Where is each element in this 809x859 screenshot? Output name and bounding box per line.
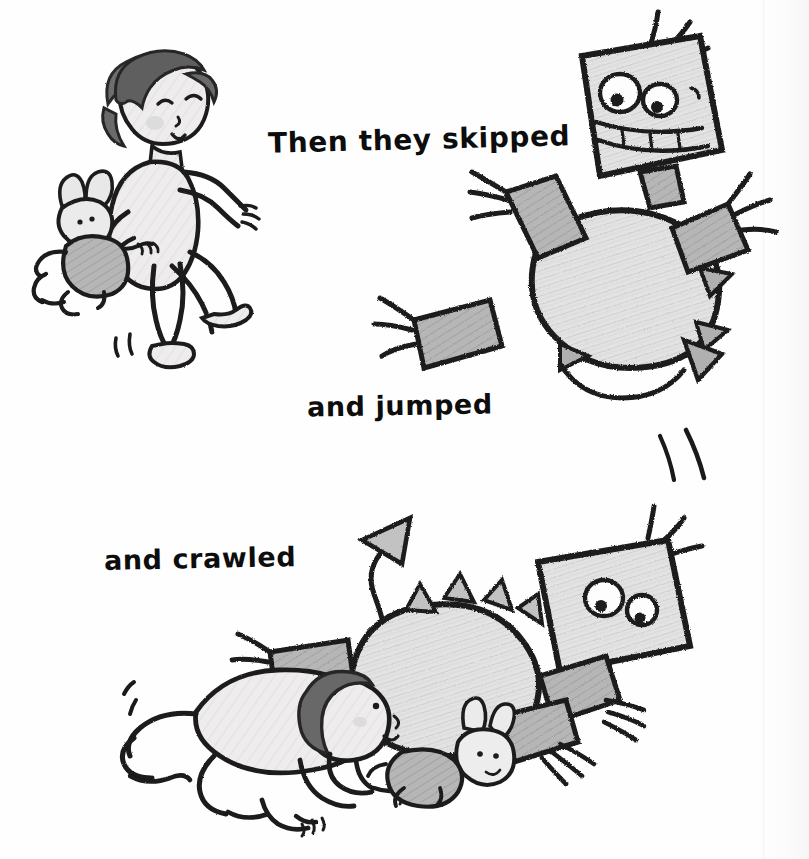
motion-marks-crawling [124, 682, 136, 714]
motion-marks-skipping [115, 334, 132, 356]
caption-and-jumped: and jumped [307, 390, 493, 420]
page-edge-shading [763, 0, 809, 859]
motion-marks-jumping [660, 430, 704, 480]
page-edge-line [762, 0, 765, 859]
child-crawling-figure [122, 670, 422, 836]
stuffed-bunny-held [34, 171, 129, 314]
robot-creature-skipping-figure [374, 12, 776, 398]
robot-creature-crawling-figure [232, 506, 702, 784]
child-skipping-figure [103, 51, 259, 368]
illustration-page: Then they skipped and jumped and crawled [0, 0, 809, 859]
caption-then-they-skipped: Then they skipped [268, 122, 571, 157]
caption-and-crawled: and crawled [104, 543, 297, 574]
stuffed-bunny-crawling [368, 698, 514, 807]
